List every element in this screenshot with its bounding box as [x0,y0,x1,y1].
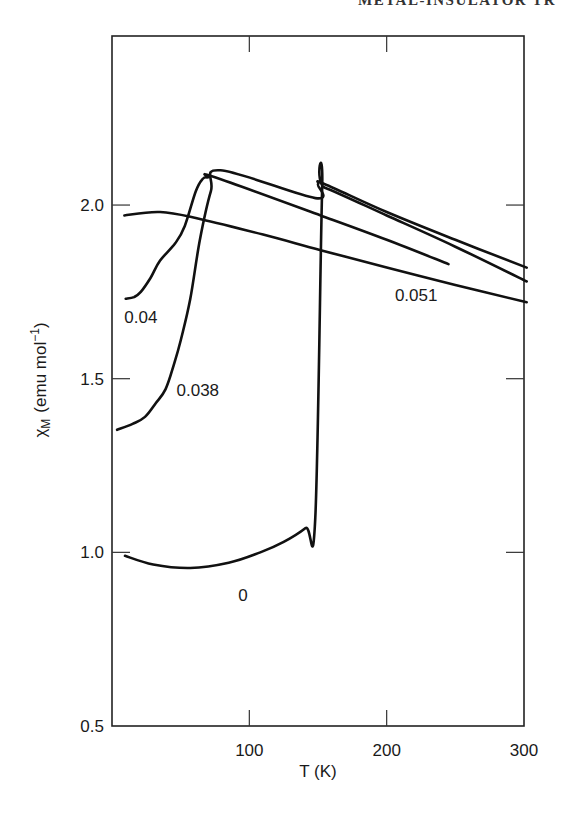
curve-label: 0.051 [395,286,438,305]
x-axis-title: T (K) [299,762,336,781]
y-axis-close: ) [31,322,50,328]
curve-x-0_04 [126,174,449,299]
curve-label: 0.04 [124,308,157,327]
x-tick-label: 100 [235,741,263,760]
svg-text:χM(emu mol−1): χM(emu mol−1) [28,322,53,437]
x-tick-label: 300 [510,741,538,760]
y-tick-label: 1.5 [80,370,104,389]
y-tick-label: 1.0 [80,543,104,562]
axis-ticks: 1002003000.51.01.52.0 [80,36,538,760]
y-tick-label: 2.0 [80,196,104,215]
y-axis-units: (emu mol [31,342,50,413]
x-tick-label: 200 [372,741,400,760]
curve-labels: 00.0380.040.051 [124,286,437,605]
y-axis-subscript: M [39,419,53,429]
y-axis-symbol: χ [31,429,50,438]
curve-label: 0.038 [177,381,220,400]
y-axis-title: χM(emu mol−1) [28,322,53,437]
y-tick-label: 0.5 [80,717,104,736]
chart: 1002003000.51.01.52.0 00.0380.040.051 T … [0,0,567,814]
curve-label: 0 [238,586,247,605]
y-axis-exponent: −1 [28,328,42,342]
curves [117,163,527,568]
